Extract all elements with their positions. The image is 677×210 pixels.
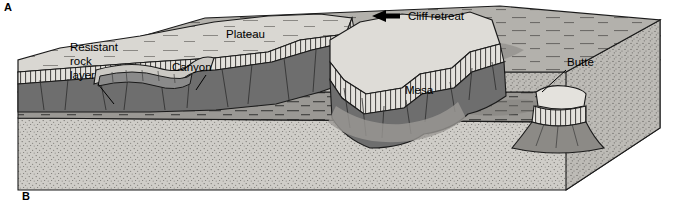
label-cliff-retreat: Cliff retreat bbox=[408, 10, 465, 22]
figure-container: A B Resistant rock layer Canyon Plateau … bbox=[0, 0, 677, 210]
label-butte: Butte bbox=[567, 56, 594, 68]
panel-label-b: B bbox=[22, 190, 30, 202]
label-resistant-rock-layer-line3: layer bbox=[70, 69, 95, 81]
butte-caprock bbox=[536, 86, 586, 109]
label-canyon: Canyon bbox=[172, 61, 212, 73]
label-resistant-rock-layer-line2: rock bbox=[70, 55, 92, 67]
panel-label-a: A bbox=[4, 1, 12, 13]
block-diagram: A B Resistant rock layer Canyon Plateau … bbox=[0, 0, 677, 210]
label-resistant-rock-layer-line1: Resistant bbox=[70, 41, 119, 53]
label-plateau: Plateau bbox=[226, 28, 265, 40]
label-mesa: Mesa bbox=[405, 84, 434, 96]
